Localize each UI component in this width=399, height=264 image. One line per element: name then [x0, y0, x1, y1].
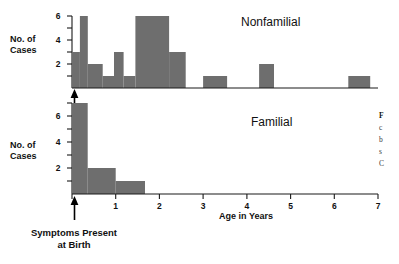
bar — [203, 76, 227, 88]
caption-line-2: c — [379, 123, 383, 132]
caption-line-5: C — [379, 159, 384, 168]
y-axis-label-line1-familial: No. of — [10, 140, 36, 150]
y-axis-label-line2-familial: Cases — [10, 151, 37, 161]
x-axis-label: Age in Years — [219, 211, 273, 221]
y-ticklabel-2-familial: 2 — [56, 163, 61, 173]
x-ticklabel-6: 6 — [332, 201, 337, 211]
y-ticklabel-2: 2 — [56, 59, 61, 69]
bars-nonfamilial — [72, 16, 370, 88]
bar — [116, 181, 145, 194]
annotation-symptoms-present: Symptoms Present — [31, 227, 118, 238]
annotation-at-birth: at Birth — [57, 239, 90, 250]
x-ticklabel-1: 1 — [113, 201, 118, 211]
bar — [114, 52, 124, 88]
y-axis-label-line2: Cases — [10, 45, 37, 55]
bar — [88, 168, 116, 194]
bar — [72, 52, 80, 88]
bar — [169, 52, 186, 88]
bar — [348, 76, 370, 88]
x-ticklabel-4: 4 — [245, 201, 250, 211]
y-ticklabel-6-familial: 6 — [56, 111, 61, 121]
bar — [135, 16, 169, 88]
figure-caption: F c b s C — [379, 111, 384, 168]
caption-line-3: b — [379, 135, 383, 144]
bar — [88, 64, 103, 88]
caption-line-1: F — [379, 111, 384, 120]
birth-marker-arrow-lower — [71, 196, 79, 220]
bar — [259, 64, 274, 88]
bar — [72, 103, 88, 194]
y-ticklabel-4-familial: 4 — [56, 137, 61, 147]
x-ticklabel-5: 5 — [288, 201, 293, 211]
bar — [80, 16, 88, 88]
panel-nonfamilial: No. of Cases 2 4 6 Non — [10, 11, 378, 88]
x-ticklabel-2: 2 — [157, 201, 162, 211]
figure-histogram-pair: No. of Cases 2 4 6 Non — [0, 0, 399, 264]
y-ticklabel-4: 4 — [56, 35, 61, 45]
y-axis-label-line1: No. of — [10, 34, 36, 44]
y-ticklabel-6: 6 — [56, 11, 61, 21]
panel-familial: No. of Cases 2 4 6 1 2 3 4 5 — [10, 103, 381, 221]
bar — [124, 76, 136, 88]
bars-familial — [72, 103, 145, 194]
panel-title-nonfamilial: Nonfamilial — [241, 15, 300, 29]
x-ticklabel-3: 3 — [201, 201, 206, 211]
caption-line-4: s — [379, 147, 382, 156]
bar — [103, 76, 114, 88]
panel-title-familial: Familial — [251, 115, 292, 129]
x-ticklabel-7: 7 — [376, 201, 381, 211]
